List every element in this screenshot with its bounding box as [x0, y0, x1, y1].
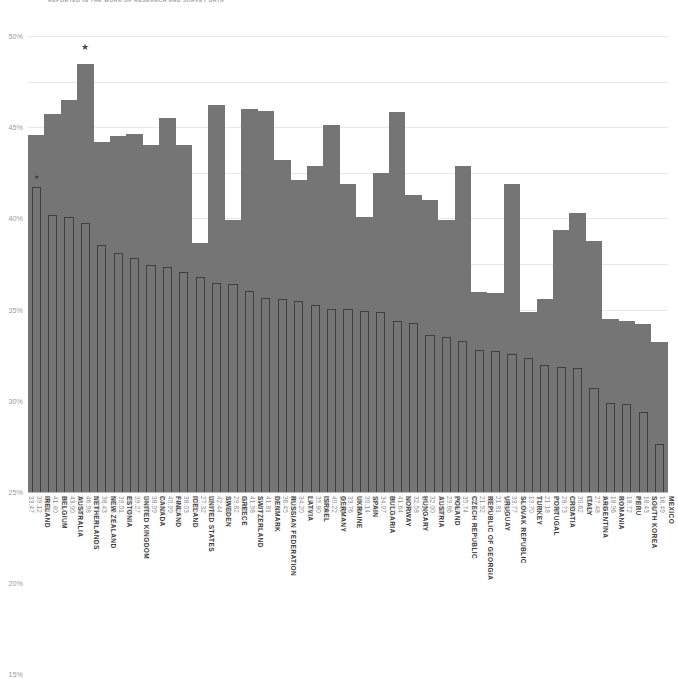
bar-slot[interactable]: [569, 36, 585, 492]
foreground-bar[interactable]: [589, 388, 598, 492]
x-label-slot: 20.9434.20LATVIA: [291, 496, 307, 676]
foreground-bar[interactable]: [507, 354, 516, 492]
bar-slot[interactable]: [373, 36, 389, 492]
foreground-bar[interactable]: [278, 299, 287, 492]
front-value-label: 19.76: [372, 496, 379, 513]
foreground-bar[interactable]: [146, 265, 155, 492]
front-value-label: 18.50: [405, 496, 412, 513]
front-value-label: 18.77: [388, 496, 395, 513]
foreground-bar[interactable]: [130, 258, 139, 492]
foreground-bar[interactable]: [475, 350, 484, 492]
bar-slot[interactable]: [356, 36, 372, 492]
back-value-label: 18.43: [642, 496, 649, 513]
foreground-bar[interactable]: [376, 312, 385, 492]
foreground-bar[interactable]: [458, 341, 467, 492]
bar-slot[interactable]: [291, 36, 307, 492]
bar-slot[interactable]: ★: [77, 36, 93, 492]
bar-slot[interactable]: [307, 36, 323, 492]
bar-slot[interactable]: [274, 36, 290, 492]
foreground-bar[interactable]: [639, 412, 648, 492]
back-value-label: 40.22: [331, 496, 338, 513]
foreground-bar[interactable]: [97, 245, 106, 492]
foreground-bar[interactable]: [409, 323, 418, 492]
foreground-bar[interactable]: [393, 321, 402, 492]
bar-slot[interactable]: [422, 36, 438, 492]
bar-slot[interactable]: [208, 36, 224, 492]
y-axis-tick-label: 35%: [9, 305, 23, 314]
bar-slot[interactable]: [405, 36, 421, 492]
foreground-bar[interactable]: [81, 223, 90, 492]
foreground-bar[interactable]: [442, 337, 451, 492]
back-value-label: 19.70: [527, 496, 534, 513]
bar-slot[interactable]: [586, 36, 602, 492]
back-value-label: 46.98: [84, 496, 91, 513]
bar-slot[interactable]: [438, 36, 454, 492]
foreground-bar[interactable]: [540, 365, 549, 492]
x-label-slot: 30.1443.00AUSTRALIA: [61, 496, 77, 676]
bar-slot[interactable]: [520, 36, 536, 492]
bar-slot[interactable]: [110, 36, 126, 492]
bar-slot[interactable]: [537, 36, 553, 492]
foreground-bar[interactable]: [294, 301, 303, 492]
bar-slot[interactable]: [455, 36, 471, 492]
bar-slot[interactable]: [126, 36, 142, 492]
bar-slot[interactable]: [192, 36, 208, 492]
foreground-bar[interactable]: [228, 284, 237, 492]
foreground-bar[interactable]: [212, 283, 221, 492]
back-value-label: 35.80: [314, 496, 321, 513]
foreground-bar[interactable]: [327, 309, 336, 492]
foreground-bar[interactable]: [64, 217, 73, 492]
foreground-bar[interactable]: [557, 367, 566, 492]
foreground-bar[interactable]: [343, 309, 352, 492]
bar-slot[interactable]: [323, 36, 339, 492]
x-label-slot: 29.5446.98NETHERLANDS: [77, 496, 93, 676]
foreground-bar[interactable]: [179, 272, 188, 492]
x-label-slot: 15.5421.92REPUBLIC OF GEORGIA: [471, 496, 487, 676]
foreground-bar[interactable]: [622, 404, 631, 492]
foreground-bar[interactable]: [491, 351, 500, 492]
foreground-bar[interactable]: [311, 305, 320, 492]
foreground-bar[interactable]: [48, 215, 57, 492]
bar-slot[interactable]: [94, 36, 110, 492]
bar-slot[interactable]: [389, 36, 405, 492]
bar-slot[interactable]: ★: [28, 36, 44, 492]
front-value-label: 21.20: [273, 496, 280, 513]
foreground-bar[interactable]: [360, 311, 369, 492]
bar-slot[interactable]: [61, 36, 77, 492]
bar-slot[interactable]: [258, 36, 274, 492]
bar-slot[interactable]: [44, 36, 60, 492]
foreground-bar[interactable]: [114, 253, 123, 492]
foreground-bar[interactable]: [524, 358, 533, 492]
bar-slot[interactable]: [487, 36, 503, 492]
back-value-label: 18.72: [626, 496, 633, 513]
bar-slot[interactable]: [241, 36, 257, 492]
bar-slot[interactable]: [159, 36, 175, 492]
foreground-bar[interactable]: [261, 298, 270, 492]
bar-slot[interactable]: [651, 36, 667, 492]
back-value-label: 33.76: [347, 496, 354, 513]
bar-slot[interactable]: [635, 36, 651, 492]
foreground-bar[interactable]: [163, 267, 172, 492]
foreground-bar[interactable]: [245, 291, 254, 492]
foreground-bar[interactable]: [573, 368, 582, 492]
bar-slot[interactable]: [340, 36, 356, 492]
bar-slot[interactable]: [553, 36, 569, 492]
foreground-bar[interactable]: [425, 335, 434, 492]
front-value-label: 24.12: [175, 496, 182, 513]
bar-slot[interactable]: [504, 36, 520, 492]
x-label-slot: 20.0933.76UKRAINE: [340, 496, 356, 676]
country-label[interactable]: MEXICO: [667, 496, 674, 524]
bar-slot[interactable]: [176, 36, 192, 492]
front-value-label: 17.20: [421, 496, 428, 513]
bar-slot[interactable]: [602, 36, 618, 492]
back-value-label: 34.20: [298, 496, 305, 513]
bar-slot[interactable]: [225, 36, 241, 492]
foreground-bar[interactable]: [606, 403, 615, 492]
foreground-bar[interactable]: [655, 444, 664, 492]
foreground-bar[interactable]: [196, 277, 205, 492]
bar-slot[interactable]: [143, 36, 159, 492]
foreground-bar[interactable]: [32, 187, 41, 492]
x-label-slot: 23.5527.32UNITED STATES: [192, 496, 208, 676]
bar-slot[interactable]: [619, 36, 635, 492]
bar-slot[interactable]: [471, 36, 487, 492]
